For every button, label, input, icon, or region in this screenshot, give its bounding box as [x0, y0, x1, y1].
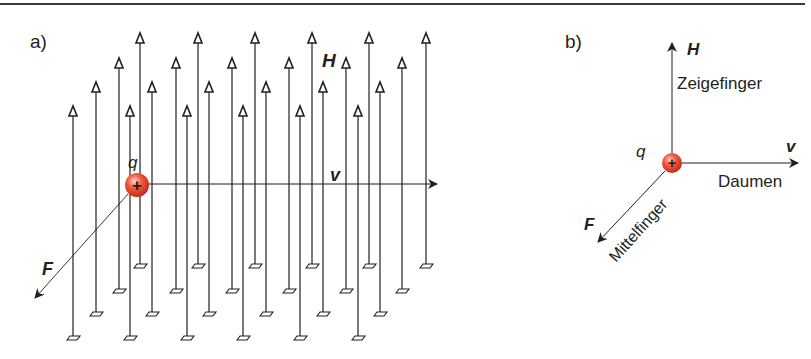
field-line-arrow	[134, 33, 147, 268]
arrowhead-icon	[194, 33, 202, 43]
field-line-arrow	[396, 58, 409, 293]
lorentz-force-diagram: a) v F H q + b) H Zeigefinger v Daumen F…	[0, 0, 811, 359]
arrowhead-icon	[262, 82, 270, 92]
arrowhead-icon	[285, 58, 293, 68]
base-plate-icon	[352, 336, 365, 340]
field-line-arrow	[306, 33, 319, 268]
field-line-arrow	[363, 33, 376, 268]
field-line-arrow	[283, 58, 296, 293]
force-label: F	[42, 259, 54, 279]
base-plate-icon	[192, 264, 205, 268]
base-plate-icon	[226, 289, 239, 293]
base-plate-icon	[396, 289, 409, 293]
arrowhead-icon	[172, 58, 180, 68]
plus-sign: +	[132, 176, 142, 195]
field-line-arrow	[67, 106, 80, 340]
panel-b: b) H Zeigefinger v Daumen F Mittelfinger…	[565, 31, 798, 265]
velocity-axis-label: v	[786, 137, 797, 156]
field-line-arrow	[181, 106, 194, 340]
base-plate-icon	[203, 312, 216, 316]
arrowhead-icon	[136, 33, 144, 43]
arrowhead-icon	[251, 33, 259, 43]
charge-q-label-b: q	[636, 142, 646, 161]
plus-sign-b: +	[668, 154, 677, 171]
field-line-arrow	[340, 58, 353, 293]
base-plate-icon	[363, 264, 376, 268]
field-label: H	[322, 50, 337, 71]
arrowhead-icon	[398, 58, 406, 68]
base-plate-icon	[340, 289, 353, 293]
panel-a: a) v F H q +	[30, 31, 437, 340]
charge-q-label: q	[128, 153, 138, 172]
field-line-arrow	[420, 33, 433, 268]
force-axis-label: F	[584, 215, 595, 234]
field-line-arrow	[294, 106, 307, 340]
base-plate-icon	[67, 336, 80, 340]
field-line-arrow	[124, 106, 137, 340]
base-plate-icon	[237, 336, 250, 340]
base-plate-icon	[294, 336, 307, 340]
field-line-arrow	[374, 82, 387, 316]
field-axis-label: H	[687, 40, 700, 59]
arrowhead-icon	[308, 33, 316, 43]
field-line-arrow	[260, 82, 273, 316]
base-plate-icon	[283, 289, 296, 293]
velocity-label: v	[330, 165, 341, 185]
base-plate-icon	[306, 264, 319, 268]
arrowhead-icon	[342, 58, 350, 68]
middle-finger-label: Mittelfinger	[606, 195, 671, 265]
base-plate-icon	[260, 312, 273, 316]
field-line-arrow	[203, 82, 216, 316]
base-plate-icon	[90, 312, 103, 316]
field-line-arrow	[90, 82, 103, 316]
field-line-arrow	[192, 33, 205, 268]
base-plate-icon	[420, 264, 433, 268]
base-plate-icon	[113, 289, 126, 293]
arrowhead-icon	[228, 58, 236, 68]
index-finger-label: Zeigefinger	[677, 74, 762, 93]
base-plate-icon	[146, 312, 159, 316]
thumb-label: Daumen	[718, 172, 782, 191]
field-line-arrow	[226, 58, 239, 293]
base-plate-icon	[317, 312, 330, 316]
panel-a-label: a)	[30, 31, 47, 52]
arrowhead-icon	[69, 106, 77, 116]
base-plate-icon	[181, 336, 194, 340]
arrowhead-icon	[365, 33, 373, 43]
field-line-arrow	[249, 33, 262, 268]
arrowhead-icon	[422, 33, 430, 43]
arrowhead-icon	[183, 106, 191, 116]
base-plate-icon	[374, 312, 387, 316]
magnetic-field-lines	[67, 33, 433, 340]
base-plate-icon	[134, 264, 147, 268]
base-plate-icon	[124, 336, 137, 340]
field-line-arrow	[352, 106, 365, 340]
arrowhead-icon	[296, 106, 304, 116]
arrowhead-icon	[319, 82, 327, 92]
arrowhead-icon	[126, 106, 134, 116]
positive-charge: +	[125, 173, 149, 197]
arrowhead-icon	[92, 82, 100, 92]
base-plate-icon	[170, 289, 183, 293]
field-line-arrow	[237, 106, 250, 340]
arrowhead-icon	[239, 106, 247, 116]
arrowhead-icon	[115, 58, 123, 68]
force-arrow	[35, 194, 128, 298]
field-line-arrow	[170, 58, 183, 293]
field-line-arrow	[146, 82, 159, 316]
positive-charge-b: +	[662, 153, 682, 173]
arrowhead-icon	[148, 82, 156, 92]
base-plate-icon	[249, 264, 262, 268]
arrowhead-icon	[376, 82, 384, 92]
field-line-arrow	[317, 82, 330, 316]
field-line-arrow	[113, 58, 126, 293]
panel-b-label: b)	[565, 31, 582, 52]
arrowhead-icon	[205, 82, 213, 92]
arrowhead-icon	[354, 106, 362, 116]
